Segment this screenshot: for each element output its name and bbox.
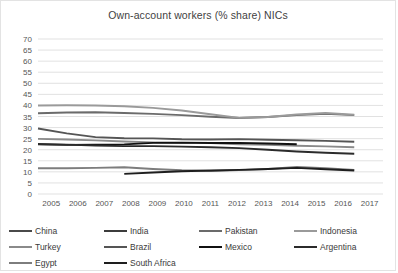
legend-label: Argentina (320, 242, 356, 252)
line-chart-svg: 0510152025303540455055606570 (1, 25, 397, 197)
y-axis-tick-label: 20 (23, 146, 32, 155)
legend-label: Pakistan (225, 226, 258, 236)
legend-item-indonesia[interactable]: Indonesia (294, 223, 389, 239)
y-axis-tick-label: 55 (23, 68, 32, 77)
y-axis-tick-label: 60 (23, 57, 32, 66)
legend-swatch-icon (9, 230, 32, 232)
x-axis-tick-label: 2011 (197, 199, 224, 213)
y-axis-tick-label: 10 (23, 168, 32, 177)
y-axis-tick-label: 70 (23, 35, 32, 44)
x-axis-tick-label: 2008 (118, 199, 145, 213)
data-series (38, 105, 354, 174)
y-axis-tick-label: 15 (23, 157, 32, 166)
legend-item-china[interactable]: China (9, 223, 104, 239)
y-axis-tick-label: 45 (23, 90, 32, 99)
legend-item-south-africa[interactable]: South Africa (104, 255, 199, 271)
legend-swatch-icon (104, 246, 127, 248)
legend-swatch-icon (9, 246, 32, 248)
legend-swatch-icon (199, 230, 222, 232)
legend-item-turkey[interactable]: Turkey (9, 239, 104, 255)
legend-item-egypt[interactable]: Egypt (9, 255, 104, 271)
x-axis-tick-label: 2013 (250, 199, 277, 213)
y-axis-tick-label: 0 (28, 190, 33, 197)
x-axis-tick-label: 2012 (224, 199, 251, 213)
legend-label: India (130, 226, 148, 236)
legend-swatch-icon (104, 230, 127, 232)
y-axis-labels: 0510152025303540455055606570 (23, 35, 32, 197)
chart-container: Own-account workers (% share) NICs 05101… (0, 0, 396, 271)
x-axis-tick-label: 2017 (356, 199, 383, 213)
y-axis-tick-label: 50 (23, 79, 32, 88)
y-axis-tick-label: 30 (23, 124, 32, 133)
legend-swatch-icon (294, 230, 317, 232)
legend-label: Brazil (130, 242, 151, 252)
legend-swatch-icon (199, 246, 222, 248)
y-axis-tick-label: 65 (23, 46, 32, 55)
legend-label: South Africa (130, 258, 176, 268)
x-axis-tick-label: 2015 (303, 199, 330, 213)
legend-item-argentina[interactable]: Argentina (294, 239, 389, 255)
legend-item-mexico[interactable]: Mexico (199, 239, 294, 255)
x-axis-tick-label: 2005 (38, 199, 65, 213)
legend-swatch-icon (104, 262, 127, 264)
plot-area: 0510152025303540455055606570 (1, 25, 397, 197)
x-axis-tick-label: 2007 (91, 199, 118, 213)
x-axis-tick-label: 2010 (171, 199, 198, 213)
legend-label: Turkey (35, 242, 61, 252)
legend-item-brazil[interactable]: Brazil (104, 239, 199, 255)
legend-label: Indonesia (320, 226, 357, 236)
legend-swatch-icon (9, 262, 32, 264)
legend-item-india[interactable]: India (104, 223, 199, 239)
legend-swatch-icon (294, 246, 317, 248)
legend-label: Egypt (35, 258, 57, 268)
y-axis-tick-label: 5 (28, 179, 33, 188)
x-axis-tick-label: 2016 (330, 199, 357, 213)
y-axis-tick-label: 40 (23, 101, 32, 110)
chart-legend: ChinaIndiaPakistanIndonesiaTurkeyBrazilM… (9, 223, 389, 271)
y-axis-tick-label: 35 (23, 113, 32, 122)
legend-label: Mexico (225, 242, 252, 252)
legend-label: China (35, 226, 57, 236)
legend-item-pakistan[interactable]: Pakistan (199, 223, 294, 239)
x-axis-tick-label: 2009 (144, 199, 171, 213)
x-axis-tick-label: 2006 (65, 199, 92, 213)
chart-title: Own-account workers (% share) NICs (1, 9, 395, 21)
x-axis-tick-label: 2014 (277, 199, 304, 213)
x-axis-labels: 2005200620072008200920102011201220132014… (38, 199, 383, 213)
y-axis-tick-label: 25 (23, 135, 32, 144)
